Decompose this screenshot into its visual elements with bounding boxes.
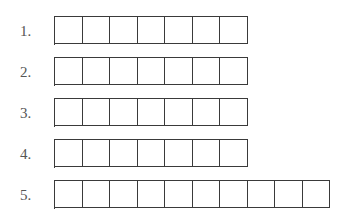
answer-box[interactable] <box>193 139 221 167</box>
row-label: 2. <box>20 62 31 82</box>
row-label: 3. <box>20 103 31 123</box>
answer-box[interactable] <box>220 57 248 85</box>
answer-box[interactable] <box>83 16 111 44</box>
answer-box[interactable] <box>220 180 248 208</box>
answer-box[interactable] <box>220 98 248 126</box>
answer-box[interactable] <box>138 180 166 208</box>
answer-boxes <box>54 98 248 127</box>
answer-box[interactable] <box>303 180 331 208</box>
answer-box[interactable] <box>55 16 83 44</box>
row-label: 5. <box>20 185 31 205</box>
answer-box[interactable] <box>138 16 166 44</box>
answer-box[interactable] <box>193 180 221 208</box>
answer-box[interactable] <box>220 16 248 44</box>
answer-box[interactable] <box>110 98 138 126</box>
answer-box[interactable] <box>193 98 221 126</box>
answer-box[interactable] <box>55 180 83 208</box>
answer-box[interactable] <box>193 57 221 85</box>
answer-boxes <box>54 57 248 86</box>
answer-box[interactable] <box>83 98 111 126</box>
answer-box[interactable] <box>248 180 276 208</box>
answer-box[interactable] <box>165 139 193 167</box>
answer-box[interactable] <box>138 139 166 167</box>
answer-box[interactable] <box>110 57 138 85</box>
answer-box[interactable] <box>165 98 193 126</box>
row-label: 4. <box>20 144 31 164</box>
answer-box[interactable] <box>83 57 111 85</box>
answer-box[interactable] <box>55 98 83 126</box>
answer-box[interactable] <box>275 180 303 208</box>
answer-boxes <box>54 139 248 168</box>
answer-box[interactable] <box>55 139 83 167</box>
answer-boxes <box>54 180 330 209</box>
answer-box[interactable] <box>55 57 83 85</box>
answer-box[interactable] <box>83 180 111 208</box>
answer-box[interactable] <box>138 57 166 85</box>
answer-box[interactable] <box>110 16 138 44</box>
answer-box[interactable] <box>165 57 193 85</box>
answer-box[interactable] <box>165 16 193 44</box>
row-label: 1. <box>20 21 31 41</box>
answer-box[interactable] <box>83 139 111 167</box>
answer-box[interactable] <box>193 16 221 44</box>
answer-box[interactable] <box>110 180 138 208</box>
answer-box[interactable] <box>138 98 166 126</box>
answer-box[interactable] <box>110 139 138 167</box>
answer-box[interactable] <box>220 139 248 167</box>
answer-box[interactable] <box>165 180 193 208</box>
answer-boxes <box>54 16 248 45</box>
